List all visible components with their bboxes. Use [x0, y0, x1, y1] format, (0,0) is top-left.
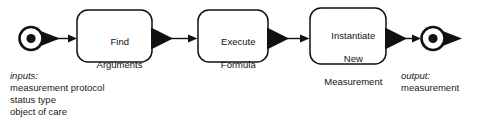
output-caption: output: measurement [401, 70, 459, 94]
activity-instantiate-new-measurement[interactable] [310, 8, 386, 64]
activity-execute-formula[interactable] [198, 10, 268, 62]
transition-start-to-find-arguments[interactable] [54, 35, 77, 43]
activity-find-arguments-shape [77, 10, 152, 62]
transition-tail-triangle [151, 28, 173, 50]
inputs-caption-title: inputs: [10, 70, 105, 82]
inputs-caption-item: object of care [10, 106, 105, 118]
output-caption-item: measurement [401, 82, 459, 94]
transition-arrowhead [300, 35, 310, 43]
activity-find-arguments[interactable] [77, 10, 152, 62]
output-caption-title: output: [401, 70, 459, 82]
activity-diagram-canvas: Find Arguments Execute Formula Instantia… [0, 0, 484, 132]
start-node-dot [26, 34, 35, 43]
transition-execute-formula-to-instantiate-new-measurement[interactable] [267, 28, 310, 50]
activity-execute-formula-shape [198, 10, 268, 62]
transition-arrowhead [68, 35, 77, 43]
transition-find-arguments-to-execute-formula[interactable] [151, 28, 198, 50]
end-node[interactable] [422, 27, 463, 50]
activity-instantiate-new-measurement-shape [310, 8, 386, 64]
inputs-caption-item: measurement protocol [10, 82, 105, 94]
transition-tail-triangle [385, 28, 407, 50]
transition-arrowhead [412, 35, 421, 43]
start-node[interactable] [20, 27, 61, 50]
inputs-caption: inputs: measurement protocol status type… [10, 70, 105, 118]
transition-arrowhead [188, 35, 198, 43]
transition-tail-triangle [267, 28, 289, 50]
end-node-dot [428, 34, 437, 43]
inputs-caption-item: status type [10, 94, 105, 106]
transition-instantiate-new-measurement-to-end[interactable] [385, 28, 421, 50]
